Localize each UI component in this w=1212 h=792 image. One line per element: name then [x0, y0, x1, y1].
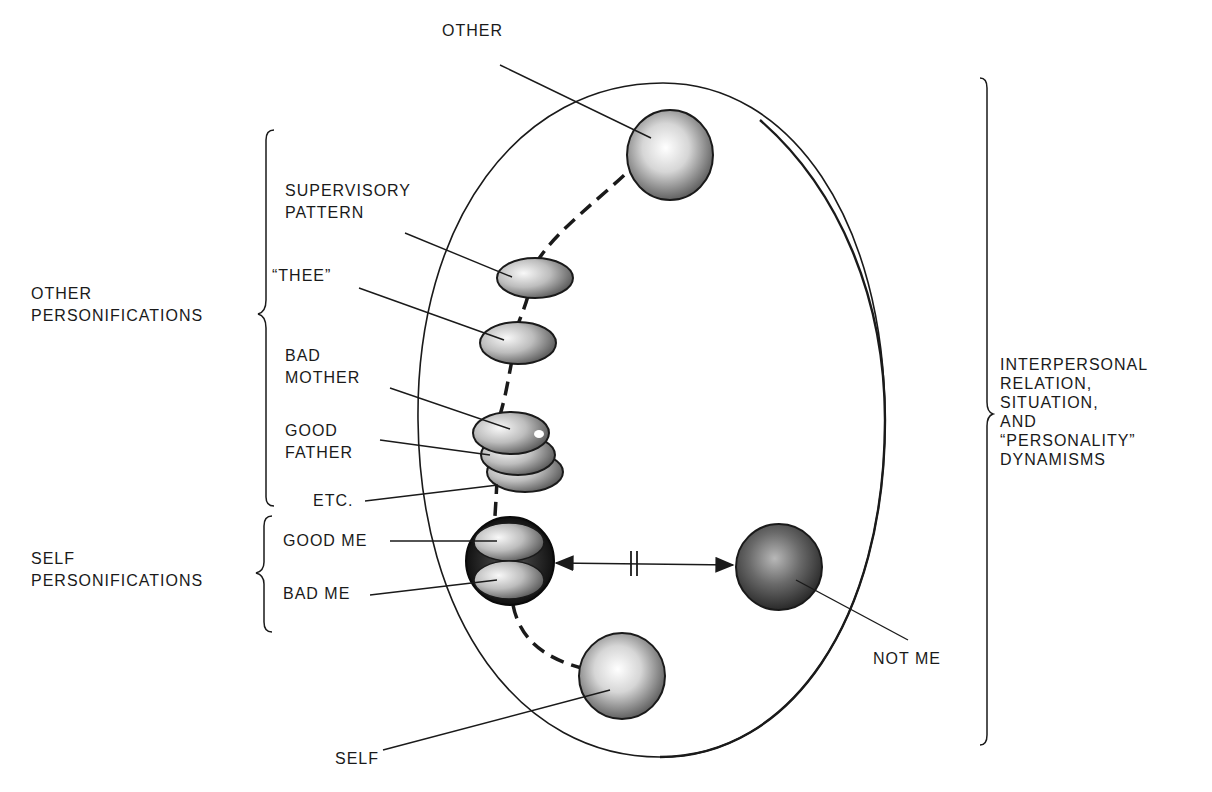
good-me-disc[interactable] [474, 523, 544, 561]
label-bad-mother: BAD MOTHER [285, 345, 360, 389]
brace-self-personifications [256, 516, 272, 632]
label-supervisory-pattern: SUPERVISORY PATTERN [285, 180, 411, 224]
self-sphere[interactable] [579, 633, 665, 719]
other-sphere[interactable] [627, 110, 713, 200]
label-good-father: GOOD FATHER [285, 420, 353, 464]
label-thee: “THEE” [272, 265, 331, 287]
label-other-personifications: OTHER PERSONIFICATIONS [31, 283, 203, 327]
broken-double-arrow [556, 551, 733, 576]
brace-dynamisms [980, 78, 993, 745]
brace-other-personifications [258, 130, 274, 506]
label-bad-me: BAD ME [283, 583, 350, 605]
bad-me-disc[interactable] [474, 561, 544, 599]
label-self-personifications: SELF PERSONIFICATIONS [31, 548, 203, 592]
label-etc: ETC. [313, 490, 353, 512]
label-self: SELF [335, 748, 379, 770]
supervisory-pattern-disc[interactable] [497, 258, 573, 298]
label-not-me: NOT ME [873, 648, 941, 670]
not-me-sphere[interactable] [736, 524, 822, 610]
bad-mother-disc[interactable] [473, 412, 549, 454]
label-good-me: GOOD ME [283, 530, 367, 552]
label-dynamisms: INTERPERSONAL RELATION, SITUATION, AND “… [1000, 355, 1148, 469]
label-other: OTHER [442, 20, 503, 42]
self-personifications-sphere[interactable] [466, 517, 554, 605]
thee-disc[interactable] [480, 322, 556, 364]
